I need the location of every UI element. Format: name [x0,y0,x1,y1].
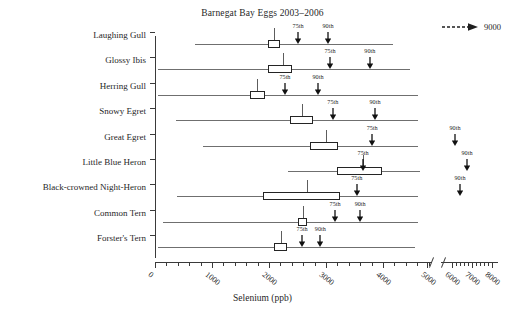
y-axis-tick [150,134,155,135]
x-axis-tick-label-5000: 5000 [419,270,437,287]
median-marker-1 [274,28,275,40]
p75-arrow-down-arrow-icon-4 [329,106,336,124]
x-axis-major-tick [452,262,453,268]
p90-arrow-label-8: 90th [355,200,366,207]
x-axis-major-tick [326,262,327,268]
x-axis-tick-label-3000: 3000 [317,270,335,287]
p75-arrow-label-5: 75th [367,124,378,131]
p90-arrow-down-arrow-icon-7 [457,182,464,200]
category-label-9: Forster's Tern [0,233,146,243]
x-axis-minor-tick [484,262,485,266]
x-axis-major-tick [212,262,213,268]
p75-arrow-label-6: 75th [358,149,369,156]
p90-arrow-down-arrow-icon-1 [324,30,331,48]
median-marker-7 [307,180,308,192]
x-axis-tick-label-4000: 4000 [374,270,392,287]
p75-arrow-down-arrow-icon-1 [295,30,302,48]
box-1 [268,40,280,48]
x-axis-minor-tick [456,262,457,266]
p90-arrow-down-arrow-icon-9 [317,233,324,251]
box-4 [290,116,313,124]
y-axis-tick [150,32,155,33]
x-axis-tick-label-2000: 2000 [260,270,278,287]
p75-arrow-label-1: 75th [293,22,304,29]
median-marker-5 [326,130,327,142]
x-axis-major-tick [155,262,156,268]
p75-arrow-label-2: 75th [324,47,335,54]
whisker-line [163,222,418,223]
median-marker-2 [283,53,284,65]
x-axis-line-segment-a [155,262,432,263]
category-label-5: Great Egret [0,132,146,142]
x-axis-minor-tick [246,262,247,266]
x-axis-minor-tick [480,262,481,266]
y-axis-line [155,36,156,258]
x-axis-tick-label-8000: 8000 [483,270,501,287]
p75-arrow-label-8: 75th [330,200,341,207]
x-axis-minor-tick [349,262,350,266]
median-marker-4 [302,104,303,116]
p75-arrow-label-4: 75th [327,98,338,105]
x-axis-major-tick [427,262,428,268]
box-7 [263,192,340,200]
p75-arrow-down-arrow-icon-6 [360,157,367,175]
category-label-3: Herring Gull [0,81,146,91]
y-axis-tick [150,57,155,58]
x-axis-minor-tick [315,262,316,266]
x-axis-tick-label-6000: 6000 [443,270,461,287]
y-axis-tick [150,210,155,211]
median-marker-9 [281,231,282,243]
p90-arrow-label-7: 90th [454,174,465,181]
y-axis-tick [150,83,155,84]
x-axis-minor-tick [258,262,259,266]
p90-arrow-down-arrow-icon-6 [464,157,471,175]
x-axis-minor-tick [372,262,373,266]
p75-arrow-down-arrow-icon-2 [326,55,333,73]
x-axis-title: Selenium (ppb) [0,293,525,303]
p75-arrow-label-7: 75th [351,174,362,181]
x-axis-minor-tick [280,262,281,266]
p90-arrow-down-arrow-icon-2 [366,55,373,73]
x-axis-minor-tick [189,262,190,266]
x-axis-minor-tick [235,262,236,266]
y-axis-tick [150,235,155,236]
median-marker-3 [257,79,258,91]
axis-break-slash-left [429,257,434,268]
p75-arrow-down-arrow-icon-9 [299,233,306,251]
x-axis-major-tick [472,262,473,268]
x-axis-tick-label-0: 0 [146,270,155,280]
x-axis-minor-tick [429,262,430,266]
p90-arrow-label-5: 90th [449,124,460,131]
x-axis-minor-tick [406,262,407,266]
x-axis-minor-tick [201,262,202,266]
p90-arrow-label-1: 90th [322,22,333,29]
p75-arrow-label-3: 75th [279,73,290,80]
x-axis-minor-tick [360,262,361,266]
category-label-4: Snowy Egret [0,106,146,116]
p90-arrow-label-3: 90th [313,73,324,80]
x-axis-tick-label-1000: 1000 [203,270,221,287]
category-label-2: Glossy Ibis [0,55,146,65]
p75-arrow-down-arrow-icon-5 [369,132,376,150]
x-axis-minor-tick [488,262,489,266]
x-axis-minor-tick [337,262,338,266]
y-axis-tick [150,159,155,160]
p75-arrow-label-9: 75th [297,225,308,232]
p90-arrow-down-arrow-icon-4 [372,106,379,124]
box-5 [310,142,338,150]
y-axis-tick [150,108,155,109]
x-axis-minor-tick [460,262,461,266]
category-label-1: Laughing Gull [0,30,146,40]
y-axis-tick [150,184,155,185]
x-axis-major-tick [269,262,270,268]
median-marker-8 [303,206,304,218]
category-label-8: Common Tern [0,208,146,218]
x-axis-minor-tick [464,262,465,266]
x-axis-tick-label-7000: 7000 [463,270,481,287]
x-axis-minor-tick [223,262,224,266]
x-axis-minor-tick [303,262,304,266]
x-axis-minor-tick [468,262,469,266]
x-axis-major-tick [383,262,384,268]
x-axis-minor-tick [476,262,477,266]
p90-arrow-down-arrow-icon-5 [452,132,459,150]
